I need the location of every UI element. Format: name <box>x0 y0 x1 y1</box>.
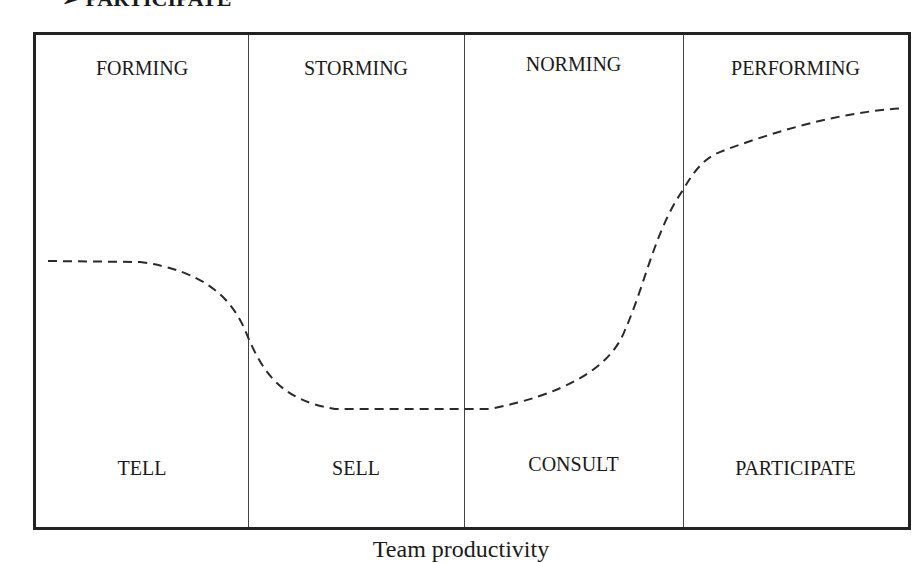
caption: Team productivity <box>0 536 922 563</box>
